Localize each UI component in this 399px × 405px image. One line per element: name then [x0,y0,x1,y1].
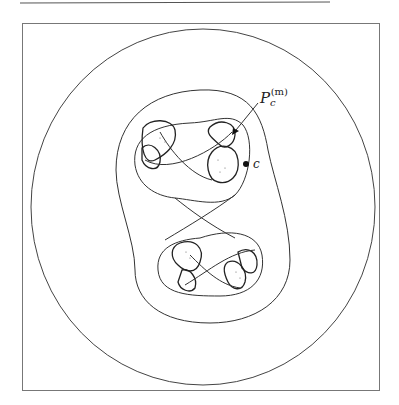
inner-bottom-lobe-region [158,233,263,296]
julia-lobe-bottom-left [172,242,201,271]
julia-dust [159,137,240,278]
waist-crossing-1 [175,198,235,238]
label-pc-sub: c [270,97,276,108]
top-rule [20,2,330,3]
pointer-line [236,103,258,130]
bottom-crossing-2 [190,255,240,288]
label-point-c: c [253,157,260,171]
julia-lobe-top-right [208,146,239,182]
label-pc-main: P [260,89,270,107]
outer-ellipse [31,29,375,385]
label-pc-m: Pc(m) [260,86,288,108]
top-crossing-2 [160,132,212,180]
label-pc-sup: (m) [271,86,288,97]
figure-frame [23,24,380,391]
julia-lobe-top-right-small [208,122,235,147]
diagram-canvas [0,0,399,405]
top-crossing-1 [145,132,232,165]
middle-oval [116,90,290,323]
julia-lobe-top-left [142,121,175,161]
point-c-marker [243,161,249,167]
